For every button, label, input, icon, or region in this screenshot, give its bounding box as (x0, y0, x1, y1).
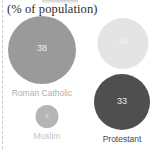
bubble-chart: (% of population) 38 Roman Catholic 24 O… (0, 0, 153, 149)
bubble-label-roman-catholic: Roman Catholic (12, 88, 72, 98)
bubble-label-protestant: Protestant (103, 134, 142, 144)
bubble-value-muslim: 5 (36, 113, 59, 119)
bubble-muslim: 5 (36, 105, 59, 128)
bubble-value-protestant: 33 (94, 97, 150, 106)
bubble-roman-catholic: 38 (8, 16, 76, 84)
bubble-value-roman-catholic: 38 (8, 44, 76, 53)
bubble-other: 24 (98, 18, 149, 69)
bubble-label-muslim: Muslim (34, 131, 61, 141)
left-dashed-divider (2, 0, 3, 149)
chart-subtitle: (% of population) (7, 2, 98, 17)
bubble-protestant: 33 (94, 74, 150, 130)
bubble-value-other: 24 (98, 37, 149, 46)
